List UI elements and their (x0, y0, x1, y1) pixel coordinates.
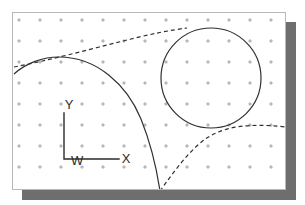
grid-marker (101, 18, 105, 22)
grid-marker (101, 165, 105, 169)
grid-marker (143, 102, 147, 106)
grid-marker (38, 123, 42, 127)
grid-marker (269, 102, 273, 106)
grid-marker (101, 123, 105, 127)
grid-marker (143, 144, 147, 148)
grid-marker (206, 81, 210, 85)
grid-marker (80, 81, 84, 85)
grid-marker (17, 81, 21, 85)
grid-marker (143, 81, 147, 85)
x-axis-label: X (122, 151, 131, 166)
grid-marker (59, 81, 63, 85)
grid-marker (59, 39, 63, 43)
grid-marker (38, 39, 42, 43)
grid-marker (59, 165, 63, 169)
grid-marker (122, 102, 126, 106)
grid-marker (164, 81, 168, 85)
grid-marker (248, 18, 252, 22)
grid-marker (143, 165, 147, 169)
grid-marker (248, 60, 252, 64)
grid-marker (227, 60, 231, 64)
origin-label: W (71, 153, 84, 168)
grid-marker (17, 102, 21, 106)
grid-marker (206, 102, 210, 106)
curve-large-arc (14, 57, 160, 189)
grid-marker (17, 165, 21, 169)
grid-marker (269, 144, 273, 148)
grid-marker (248, 102, 252, 106)
curve-circle (161, 28, 261, 128)
grid-marker (17, 60, 21, 64)
grid-marker (80, 39, 84, 43)
grid-marker (269, 39, 273, 43)
grid-marker (122, 60, 126, 64)
grid-marker (227, 144, 231, 148)
grid-marker (38, 165, 42, 169)
grid-marker (185, 81, 189, 85)
grid-marker (248, 39, 252, 43)
y-axis-label: Y (65, 97, 74, 112)
grid-marker (38, 102, 42, 106)
grid-marker (38, 18, 42, 22)
grid-marker (164, 123, 168, 127)
grid-marker (227, 165, 231, 169)
grid-marker (59, 60, 63, 64)
grid-marker (206, 18, 210, 22)
grid-marker (17, 39, 21, 43)
grid-marker (248, 165, 252, 169)
grid-marker (143, 60, 147, 64)
grid-marker (227, 81, 231, 85)
grid-marker (143, 39, 147, 43)
grid-marker (122, 18, 126, 22)
grid-marker (101, 81, 105, 85)
grid-marker (122, 81, 126, 85)
grid-marker (17, 18, 21, 22)
grid-marker (17, 144, 21, 148)
grid-marker (269, 81, 273, 85)
grid-marker (59, 144, 63, 148)
grid-marker (38, 81, 42, 85)
curve-layer (14, 28, 285, 189)
grid-markers (17, 18, 273, 169)
grid-marker (185, 39, 189, 43)
grid-marker (206, 144, 210, 148)
grid-marker (38, 144, 42, 148)
grid-marker (227, 39, 231, 43)
coordinate-frame: Y X W (64, 97, 131, 168)
grid-marker (101, 60, 105, 64)
grid-marker (59, 123, 63, 127)
grid-marker (122, 123, 126, 127)
grid-marker (269, 18, 273, 22)
screenshot-root: Y X W (0, 0, 305, 205)
grid-marker (206, 123, 210, 127)
grid-marker (206, 39, 210, 43)
diagram-panel[interactable]: Y X W (12, 12, 286, 190)
grid-marker (164, 18, 168, 22)
grid-marker (59, 102, 63, 106)
grid-marker (164, 60, 168, 64)
grid-marker (206, 60, 210, 64)
grid-marker (185, 18, 189, 22)
grid-marker (185, 102, 189, 106)
grid-marker (164, 39, 168, 43)
grid-marker (122, 144, 126, 148)
geometry-diagram[interactable]: Y X W (13, 13, 285, 189)
grid-marker (206, 165, 210, 169)
grid-marker (185, 60, 189, 64)
grid-marker (80, 18, 84, 22)
grid-marker (80, 144, 84, 148)
grid-marker (227, 102, 231, 106)
grid-marker (269, 165, 273, 169)
grid-marker (101, 102, 105, 106)
grid-marker (185, 144, 189, 148)
grid-marker (164, 144, 168, 148)
grid-marker (59, 18, 63, 22)
grid-marker (164, 165, 168, 169)
grid-marker (101, 144, 105, 148)
grid-marker (227, 18, 231, 22)
grid-marker (248, 144, 252, 148)
grid-marker (269, 60, 273, 64)
grid-marker (143, 18, 147, 22)
grid-marker (80, 102, 84, 106)
grid-marker (185, 123, 189, 127)
